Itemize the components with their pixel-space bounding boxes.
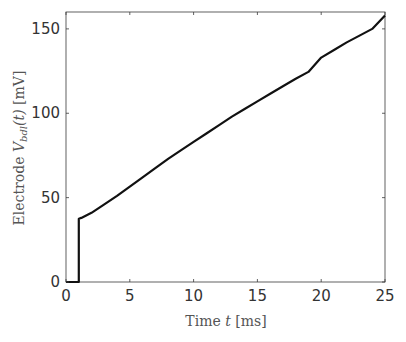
series-line: [66, 15, 385, 282]
y-tick-label: 50: [41, 189, 60, 207]
x-tick-label: 25: [375, 287, 394, 305]
data-series: [66, 15, 385, 282]
plot-area: [66, 12, 385, 282]
y-tick-label: 150: [31, 20, 60, 38]
y-axis-label: Electrode Vbdl(t) [mV]: [11, 71, 29, 226]
x-tick-label: 5: [125, 287, 135, 305]
x-tick-label: 20: [312, 287, 331, 305]
y-axis-ticks: 050100150: [31, 20, 385, 291]
axes-box: [66, 12, 385, 282]
y-tick-label: 0: [50, 273, 60, 291]
x-axis-ticks: 0510152025: [61, 12, 394, 305]
x-tick-label: 10: [184, 287, 203, 305]
y-tick-label: 100: [31, 104, 60, 122]
x-axis-label: Time t [ms]: [185, 313, 266, 329]
line-chart: 0510152025 050100150 Time t [ms] Electro…: [0, 0, 406, 342]
x-tick-label: 15: [248, 287, 267, 305]
x-tick-label: 0: [61, 287, 71, 305]
